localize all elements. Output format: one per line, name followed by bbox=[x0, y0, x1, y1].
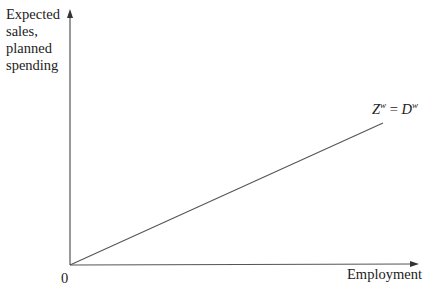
y-axis-label-line-2: sales, bbox=[6, 23, 60, 40]
origin-label: 0 bbox=[61, 270, 68, 287]
y-axis-label-line-3: planned bbox=[6, 40, 60, 57]
y-axis-label: Expected sales, planned spending bbox=[6, 6, 60, 74]
curve-label: Zw = Dw bbox=[372, 100, 418, 118]
y-axis-arrow-icon bbox=[67, 9, 73, 18]
zw-dw-line bbox=[70, 123, 383, 265]
y-axis-label-line-1: Expected bbox=[6, 6, 60, 23]
curve-label-d-sup: w bbox=[412, 100, 418, 110]
curve-label-z: Z bbox=[372, 101, 380, 117]
x-axis-label: Employment bbox=[347, 266, 422, 283]
curve-label-equals: = bbox=[386, 101, 401, 117]
x-axis bbox=[70, 264, 412, 265]
diagram-canvas bbox=[0, 0, 429, 290]
curve-label-d: D bbox=[402, 101, 412, 117]
y-axis-label-line-4: spending bbox=[6, 57, 60, 74]
